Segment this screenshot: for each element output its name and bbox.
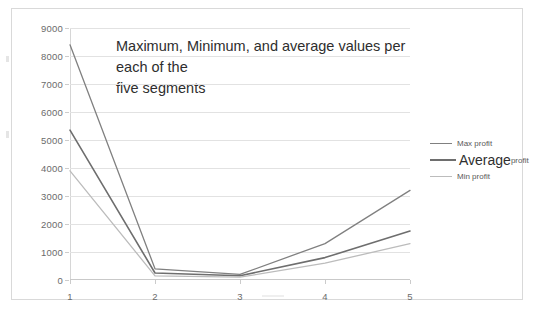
y-axis-tick-label: 8000 [41, 51, 63, 62]
x-axis-tick-label: 4 [322, 291, 327, 302]
legend-label-average-profit-sub: profit [511, 156, 529, 165]
chart-legend: Max profit Average profit Min profit [430, 139, 522, 185]
y-axis-tick-mark [65, 56, 69, 57]
legend-item-average-profit[interactable]: Average profit [430, 152, 522, 168]
scan-artifact-left-top [6, 56, 9, 62]
y-axis-tick-label: 6000 [41, 107, 63, 118]
y-axis-tick-mark [65, 28, 69, 29]
series-lines [70, 28, 410, 280]
y-axis-tick-mark [65, 84, 69, 85]
x-axis-tick-label: 1 [67, 291, 72, 302]
y-axis-tick-label: 1000 [41, 247, 63, 258]
x-axis-tick-label: 3 [237, 291, 242, 302]
x-axis-tick-mark [410, 280, 411, 284]
y-axis-tick-label: 0 [58, 275, 63, 286]
y-axis-tick-label: 4000 [41, 163, 63, 174]
legend-swatch-min-profit [430, 176, 452, 177]
legend-item-min-profit[interactable]: Min profit [430, 172, 522, 181]
y-axis-tick-mark [65, 112, 69, 113]
legend-swatch-max-profit [430, 143, 452, 144]
y-axis-tick-mark [65, 224, 69, 225]
y-axis-tick-mark [65, 168, 69, 169]
y-axis-tick-mark [65, 280, 69, 281]
scan-artifact-bottom [262, 295, 284, 297]
series-line [70, 130, 410, 276]
x-axis-tick-label: 2 [152, 291, 157, 302]
x-axis-tick-mark [240, 280, 241, 284]
y-axis-tick-mark [65, 196, 69, 197]
x-axis-tick-mark [70, 280, 71, 284]
y-axis-tick-mark [65, 140, 69, 141]
legend-label-min-profit: Min profit [457, 172, 490, 181]
y-axis-tick-label: 5000 [41, 135, 63, 146]
y-axis-tick-label: 7000 [41, 79, 63, 90]
y-axis-tick-label: 9000 [41, 23, 63, 34]
chart-container: Maximum, Minimum, and average values per… [11, 8, 523, 300]
legend-label-max-profit: Max profit [457, 139, 492, 148]
y-axis-tick-label: 2000 [41, 219, 63, 230]
x-axis-tick-mark [325, 280, 326, 284]
legend-swatch-average-profit [430, 159, 456, 161]
y-axis-tick-mark [65, 252, 69, 253]
plot-area: 0100020003000400050006000700080009000 12… [70, 28, 410, 280]
series-line [70, 45, 410, 275]
x-axis-tick-mark [155, 280, 156, 284]
x-axis-tick-label: 5 [407, 291, 412, 302]
series-line [70, 171, 410, 277]
legend-label-average-profit-main: Average [459, 152, 511, 168]
y-axis-tick-label: 3000 [41, 191, 63, 202]
legend-item-max-profit[interactable]: Max profit [430, 139, 522, 148]
scan-artifact-left-middle [6, 131, 9, 138]
